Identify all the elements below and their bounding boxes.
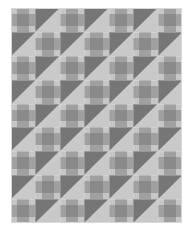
- quilt-block-nine-patch: [84, 80, 108, 104]
- quilt-block-nine-patch: [11, 151, 35, 175]
- quilt-block-half-square-triangle: [109, 80, 133, 104]
- quilt-block-nine-patch: [35, 175, 59, 199]
- quilt-block-nine-patch: [11, 199, 35, 223]
- triangle-icon: [133, 8, 157, 32]
- quilt-block-half-square-triangle: [158, 127, 182, 151]
- triangle-icon: [60, 32, 84, 56]
- triangle-icon: [84, 56, 108, 80]
- quilt-block-half-square-triangle: [11, 175, 35, 199]
- triangle-icon: [84, 104, 108, 128]
- quilt-block-half-square-triangle: [158, 80, 182, 104]
- quilt-block-nine-patch: [11, 8, 35, 32]
- quilt-block-nine-patch: [35, 32, 59, 56]
- quilt-block-nine-patch: [109, 199, 133, 223]
- quilt-block-half-square-triangle: [109, 175, 133, 199]
- quilt-block-half-square-triangle: [11, 80, 35, 104]
- triangle-icon: [109, 32, 133, 56]
- quilt-block-nine-patch: [158, 8, 182, 32]
- quilt-block-half-square-triangle: [158, 32, 182, 56]
- quilt-block-half-square-triangle: [109, 127, 133, 151]
- triangle-icon: [84, 8, 108, 32]
- quilt-block-half-square-triangle: [133, 151, 157, 175]
- quilt-block-nine-patch: [11, 56, 35, 80]
- triangle-icon: [158, 80, 182, 104]
- quilt-block-nine-patch: [84, 127, 108, 151]
- quilt-block-half-square-triangle: [133, 199, 157, 223]
- quilt-block-nine-patch: [60, 8, 84, 32]
- triangle-icon: [35, 199, 59, 223]
- quilt-block-nine-patch: [158, 199, 182, 223]
- quilt-block-half-square-triangle: [133, 8, 157, 32]
- triangle-icon: [60, 175, 84, 199]
- quilt-block-nine-patch: [133, 127, 157, 151]
- triangle-icon: [109, 80, 133, 104]
- triangle-icon: [109, 175, 133, 199]
- patch-square: [176, 217, 182, 223]
- quilt-block-nine-patch: [133, 32, 157, 56]
- quilt-block-nine-patch: [60, 199, 84, 223]
- quilt-block-half-square-triangle: [84, 56, 108, 80]
- triangle-icon: [133, 56, 157, 80]
- quilt-block-nine-patch: [109, 8, 133, 32]
- triangle-icon: [133, 151, 157, 175]
- quilt-block-grid: [11, 8, 182, 223]
- quilt-block-half-square-triangle: [35, 56, 59, 80]
- triangle-icon: [158, 127, 182, 151]
- triangle-icon: [60, 80, 84, 104]
- triangle-icon: [35, 8, 59, 32]
- quilt-block-nine-patch: [35, 80, 59, 104]
- quilt-block-half-square-triangle: [35, 151, 59, 175]
- quilt-block-half-square-triangle: [11, 32, 35, 56]
- triangle-icon: [11, 80, 35, 104]
- quilt-image-canvas: [0, 0, 193, 234]
- triangle-icon: [11, 175, 35, 199]
- triangle-icon: [84, 199, 108, 223]
- quilt-block-half-square-triangle: [84, 8, 108, 32]
- triangle-icon: [35, 56, 59, 80]
- quilt-block-nine-patch: [60, 56, 84, 80]
- quilt-block-half-square-triangle: [35, 199, 59, 223]
- quilt-block-nine-patch: [109, 151, 133, 175]
- quilt-block-nine-patch: [158, 151, 182, 175]
- quilt-block-nine-patch: [11, 104, 35, 128]
- quilt-block-nine-patch: [109, 104, 133, 128]
- quilt-block-nine-patch: [84, 32, 108, 56]
- quilt-block-half-square-triangle: [133, 104, 157, 128]
- quilt-block-nine-patch: [109, 56, 133, 80]
- triangle-icon: [133, 199, 157, 223]
- quilt-block-nine-patch: [158, 104, 182, 128]
- quilt-block-half-square-triangle: [133, 56, 157, 80]
- quilt-block-half-square-triangle: [158, 175, 182, 199]
- quilt-block-half-square-triangle: [11, 127, 35, 151]
- triangle-icon: [133, 104, 157, 128]
- triangle-icon: [35, 151, 59, 175]
- triangle-icon: [158, 175, 182, 199]
- quilt-block-half-square-triangle: [60, 175, 84, 199]
- triangle-icon: [11, 32, 35, 56]
- triangle-icon: [35, 104, 59, 128]
- quilt-block-half-square-triangle: [60, 127, 84, 151]
- quilt-block-half-square-triangle: [60, 80, 84, 104]
- quilt-block-half-square-triangle: [60, 32, 84, 56]
- quilt-block-half-square-triangle: [35, 8, 59, 32]
- quilt-block-nine-patch: [60, 104, 84, 128]
- quilt-block-half-square-triangle: [84, 104, 108, 128]
- quilt-block-nine-patch: [133, 175, 157, 199]
- quilt-block-nine-patch: [133, 80, 157, 104]
- quilt-block-nine-patch: [60, 151, 84, 175]
- quilt-block-half-square-triangle: [35, 104, 59, 128]
- triangle-icon: [109, 127, 133, 151]
- quilt-block-half-square-triangle: [109, 32, 133, 56]
- triangle-icon: [11, 127, 35, 151]
- triangle-icon: [84, 151, 108, 175]
- quilt-block-nine-patch: [35, 127, 59, 151]
- quilt-block-nine-patch: [158, 56, 182, 80]
- quilt-block-nine-patch: [84, 175, 108, 199]
- quilt-block-half-square-triangle: [84, 199, 108, 223]
- quilt-block-half-square-triangle: [84, 151, 108, 175]
- triangle-icon: [158, 32, 182, 56]
- triangle-icon: [60, 127, 84, 151]
